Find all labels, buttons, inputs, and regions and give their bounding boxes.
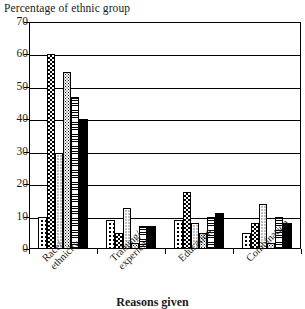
chart-title: Percentage of ethnic group xyxy=(4,1,130,15)
x-axis-tick-mark xyxy=(301,249,302,254)
x-axis-tick-mark xyxy=(97,249,98,254)
y-axis-tick-mark xyxy=(24,54,29,55)
y-axis-tick-mark xyxy=(24,119,29,120)
y-axis-tick-mark xyxy=(24,184,29,185)
x-axis-title: Reasons given xyxy=(0,296,305,309)
gridline xyxy=(30,218,300,219)
y-axis-tick-mark xyxy=(24,22,29,23)
gridline xyxy=(30,88,300,89)
gridline xyxy=(30,120,300,121)
plot-area xyxy=(29,22,301,249)
x-axis-tick-mark xyxy=(165,249,166,254)
gridline xyxy=(30,185,300,186)
y-axis-tick-mark xyxy=(24,152,29,153)
gridline xyxy=(30,153,300,154)
y-axis-tick-mark xyxy=(24,87,29,88)
gridline xyxy=(30,55,300,56)
x-axis-tick-mark xyxy=(29,249,30,254)
y-axis-tick-mark xyxy=(24,217,29,218)
x-axis-tick-mark xyxy=(233,249,234,254)
